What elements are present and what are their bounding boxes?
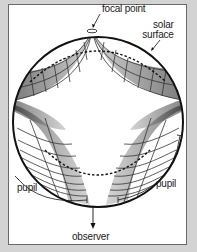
- ray-bundle-upper-right: [92, 30, 182, 100]
- observer-label: observer: [72, 232, 109, 242]
- pupil-label-right: pupil: [156, 179, 176, 189]
- solar-surface-label: solar surface: [142, 20, 173, 40]
- pupil-label-left: pupil: [17, 183, 37, 193]
- focal-point-marker: [87, 29, 97, 33]
- ray-bundle-lower-right: [106, 100, 181, 205]
- focal-point-label: focal point: [102, 4, 145, 14]
- solar-surface-label-line2: surface: [142, 30, 173, 40]
